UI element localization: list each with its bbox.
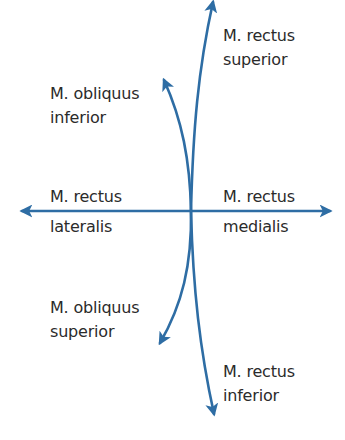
arrow-rectus-inferior <box>191 211 214 414</box>
arrow-obliquus-inferior <box>164 80 191 211</box>
label-obliquus-superior: M. obliquus superior <box>50 296 139 344</box>
label-line: M. rectus <box>50 185 122 209</box>
label-rectus-superior: M. rectus superior <box>223 24 295 72</box>
label-line: medialis <box>223 215 295 239</box>
label-line: superior <box>223 48 295 72</box>
label-rectus-inferior: M. rectus inferior <box>223 360 295 408</box>
label-line: inferior <box>50 106 139 130</box>
arrow-rectus-superior <box>191 2 213 211</box>
label-line: M. rectus <box>223 185 295 209</box>
label-line: inferior <box>223 384 295 408</box>
label-line: M. obliquus <box>50 296 139 320</box>
label-line: M. rectus <box>223 24 295 48</box>
label-line: M. rectus <box>223 360 295 384</box>
label-rectus-medialis: M. rectus medialis <box>223 185 295 239</box>
arrow-obliquus-superior <box>160 211 191 343</box>
label-line: superior <box>50 320 139 344</box>
label-obliquus-inferior: M. obliquus inferior <box>50 82 139 130</box>
label-rectus-lateralis: M. rectus lateralis <box>50 185 122 239</box>
label-line: M. obliquus <box>50 82 139 106</box>
label-line: lateralis <box>50 215 122 239</box>
